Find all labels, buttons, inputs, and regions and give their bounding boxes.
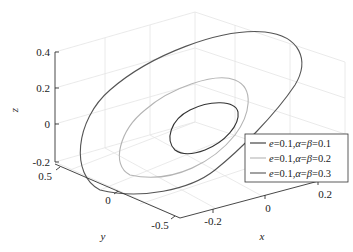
- svg-text:-0.2: -0.2: [33, 156, 50, 168]
- curve-alpha-beta-0.2: [119, 78, 248, 177]
- x-tick-labels: -0.2 0 0.2: [204, 188, 332, 227]
- y-axis-label: y: [100, 230, 106, 242]
- svg-text:0: 0: [45, 118, 51, 130]
- svg-text:e=0.1,α=β=0.2: e=0.1,α=β=0.2: [269, 153, 331, 164]
- svg-text:e=0.1,α=β=0.3: e=0.1,α=β=0.3: [269, 168, 331, 179]
- svg-text:e=0.1,α=β=0.1: e=0.1,α=β=0.1: [269, 138, 331, 149]
- grid-lines: [55, 12, 345, 218]
- svg-text:0.4: 0.4: [36, 46, 50, 58]
- svg-text:0.5: 0.5: [38, 170, 52, 182]
- z-tick-labels: 0.4 0.2 0 -0.2: [33, 46, 51, 168]
- svg-text:0: 0: [105, 194, 111, 206]
- 3d-phase-plot: 0.4 0.2 0 -0.2 0.5 0 -0.5 -0.2 0 0.2 z y…: [0, 0, 353, 252]
- z-axis-label: z: [8, 107, 20, 113]
- svg-text:-0.2: -0.2: [204, 215, 221, 227]
- svg-text:0.2: 0.2: [36, 82, 50, 94]
- x-axis-label: x: [259, 230, 265, 242]
- legend: e=0.1,α=β=0.1 e=0.1,α=β=0.2 e=0.1,α=β=0.…: [245, 134, 348, 182]
- svg-text:-0.5: -0.5: [151, 219, 169, 231]
- svg-text:0.2: 0.2: [318, 188, 332, 200]
- curve-alpha-beta-0.1: [170, 103, 238, 154]
- svg-text:0: 0: [265, 202, 271, 214]
